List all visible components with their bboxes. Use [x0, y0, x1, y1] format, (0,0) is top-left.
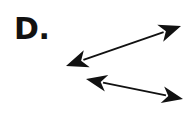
lower-arrow-shaft — [103, 83, 166, 96]
upper-arrow — [66, 25, 181, 68]
figure-canvas: D. — [0, 0, 192, 127]
lower-arrow — [86, 75, 183, 103]
upper-arrow-shaft — [83, 32, 163, 60]
arrow-layer — [66, 25, 183, 103]
arrow-diagram — [0, 0, 192, 127]
